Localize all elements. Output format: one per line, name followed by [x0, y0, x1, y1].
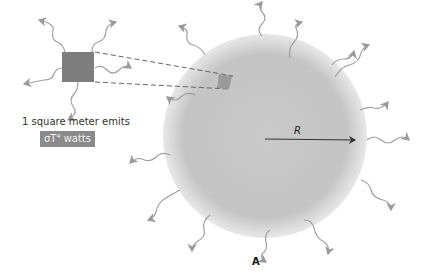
radius-label: R	[294, 125, 301, 136]
panel-label: A	[252, 256, 260, 267]
star-sphere	[163, 34, 367, 238]
power-label: σT⁴ watts	[40, 131, 95, 147]
emission-text: 1 square meter emits	[22, 116, 130, 127]
square-meter	[62, 52, 94, 82]
